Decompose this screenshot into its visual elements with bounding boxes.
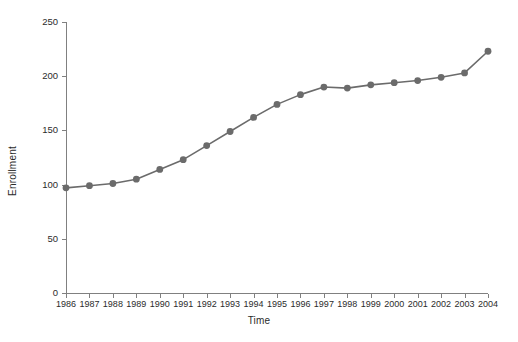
data-point-marker — [414, 77, 421, 84]
data-point-marker — [227, 128, 234, 135]
enrollment-line-series — [66, 22, 488, 293]
x-tick-mark — [136, 294, 137, 298]
y-tick-label-text: 150 — [34, 125, 58, 135]
x-tick-mark — [230, 294, 231, 298]
x-tick-mark — [465, 294, 466, 298]
y-tick-label: 100 — [32, 180, 58, 190]
x-tick-mark — [113, 294, 114, 298]
x-tick-mark — [66, 294, 67, 298]
data-point-marker — [133, 176, 140, 183]
series-polyline — [66, 51, 488, 188]
data-point-marker — [367, 81, 374, 88]
x-tick-mark — [207, 294, 208, 298]
x-tick-mark — [441, 294, 442, 298]
y-tick-label: 50 — [32, 234, 58, 244]
y-tick-label: 150 — [32, 125, 58, 135]
y-tick-label: 250 — [32, 17, 58, 27]
data-point-marker — [274, 101, 281, 108]
x-tick-mark — [394, 294, 395, 298]
y-axis-title: Enrollment — [0, 0, 24, 342]
x-tick-mark — [371, 294, 372, 298]
x-tick-mark — [89, 294, 90, 298]
data-point-marker — [297, 91, 304, 98]
x-axis-title: Time — [0, 315, 518, 326]
x-tick-mark — [160, 294, 161, 298]
data-point-marker — [438, 74, 445, 81]
data-point-marker — [344, 85, 351, 92]
x-tick-label: 2004 — [471, 299, 505, 310]
data-point-marker — [320, 84, 327, 91]
y-tick-label: 0 — [32, 288, 58, 298]
x-tick-mark — [183, 294, 184, 298]
chart-figure: Enrollment 050100150200250 1986198719881… — [0, 0, 518, 342]
plot-area — [66, 22, 488, 293]
x-tick-mark — [277, 294, 278, 298]
x-tick-mark — [324, 294, 325, 298]
data-point-marker — [156, 166, 163, 173]
y-tick-label-text: 0 — [34, 288, 58, 298]
x-tick-mark — [300, 294, 301, 298]
y-tick-label-text: 250 — [34, 17, 58, 27]
series-markers — [63, 48, 492, 191]
data-point-marker — [86, 182, 93, 189]
data-point-marker — [203, 142, 210, 149]
y-tick-label: 200 — [32, 71, 58, 81]
x-tick-mark — [347, 294, 348, 298]
data-point-marker — [63, 184, 70, 191]
data-point-marker — [180, 156, 187, 163]
y-tick-label-text: 100 — [34, 180, 58, 190]
x-tick-mark — [488, 294, 489, 298]
data-point-marker — [250, 114, 257, 121]
y-tick-label-text: 200 — [34, 71, 58, 81]
data-point-marker — [485, 48, 492, 55]
x-tick-mark — [254, 294, 255, 298]
x-tick-mark — [418, 294, 419, 298]
data-point-marker — [391, 79, 398, 86]
data-point-marker — [109, 180, 116, 187]
data-point-marker — [461, 70, 468, 77]
y-tick-label-text: 50 — [34, 234, 58, 244]
